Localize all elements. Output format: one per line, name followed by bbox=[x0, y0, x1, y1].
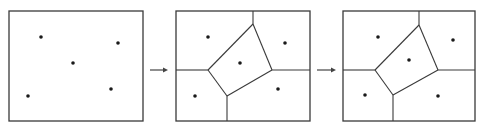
site-point bbox=[26, 94, 30, 98]
voronoi-edge bbox=[208, 70, 227, 96]
panel-2 bbox=[176, 11, 310, 121]
site-point bbox=[109, 87, 113, 91]
voronoi-edge bbox=[375, 25, 419, 70]
arrow-right-icon bbox=[150, 68, 168, 73]
site-point bbox=[71, 61, 75, 65]
voronoi-edge bbox=[208, 24, 253, 70]
panel-1 bbox=[9, 11, 143, 121]
voronoi-edge bbox=[227, 70, 272, 96]
site-point bbox=[436, 94, 440, 98]
site-point bbox=[283, 41, 287, 45]
panel-3 bbox=[343, 11, 475, 121]
site-point bbox=[193, 94, 197, 98]
site-point bbox=[238, 61, 242, 65]
voronoi-edge bbox=[375, 70, 393, 95]
voronoi-edge bbox=[253, 24, 272, 70]
site-point bbox=[407, 58, 411, 62]
site-point bbox=[363, 93, 367, 97]
panel-frame bbox=[9, 11, 143, 121]
site-point bbox=[116, 41, 120, 45]
site-point bbox=[39, 35, 43, 39]
voronoi-edge bbox=[393, 70, 438, 95]
site-point bbox=[376, 35, 380, 39]
panels bbox=[9, 11, 475, 121]
voronoi-diagram bbox=[0, 0, 481, 132]
arrow-right-icon bbox=[317, 68, 336, 73]
site-point bbox=[276, 87, 280, 91]
site-point bbox=[451, 38, 455, 42]
voronoi-edge bbox=[419, 25, 438, 70]
panel-frame bbox=[176, 11, 310, 121]
panel-frame bbox=[343, 11, 475, 121]
site-point bbox=[206, 35, 210, 39]
